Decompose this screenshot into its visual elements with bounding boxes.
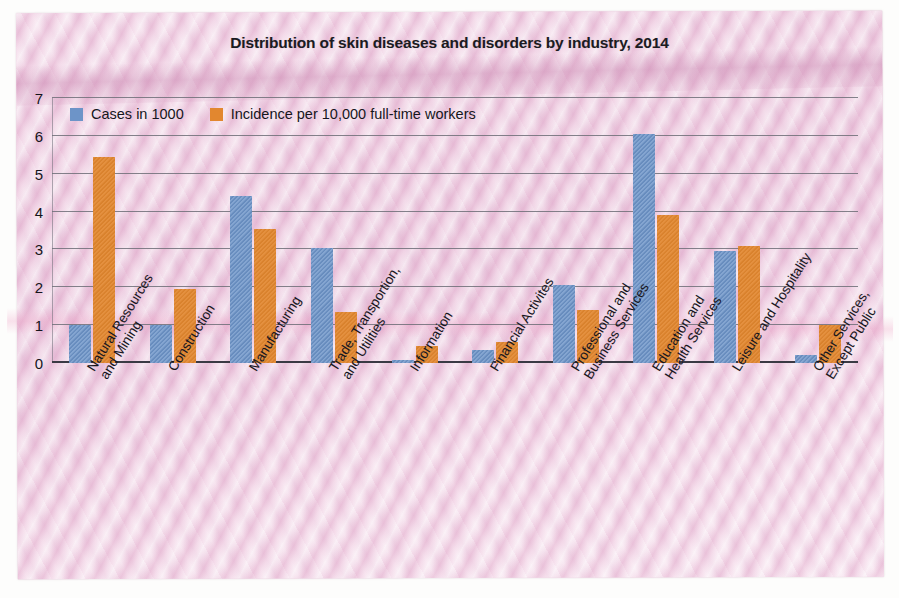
y-axis-tick-7: 7 — [35, 91, 43, 106]
legend-label-incidence: Incidence per 10,000 full-time workers — [231, 106, 476, 122]
chart-title: Distribution of skin diseases and disord… — [0, 34, 899, 52]
bar-cases — [633, 134, 655, 363]
chart-legend: Cases in 1000 Incidence per 10,000 full-… — [70, 106, 476, 122]
legend-item-incidence: Incidence per 10,000 full-time workers — [210, 106, 476, 122]
legend-swatch-icon-incidence — [210, 108, 223, 121]
x-axis-labels: Natural Resources and MiningConstruction… — [52, 366, 858, 566]
y-axis-tick-1: 1 — [35, 318, 43, 333]
y-axis-tick-6: 6 — [35, 128, 43, 143]
y-axis-tick-2: 2 — [35, 280, 43, 295]
legend-label-cases: Cases in 1000 — [91, 106, 184, 122]
scanned-chart-page: Distribution of skin diseases and disord… — [0, 0, 899, 598]
bar-cases — [230, 196, 252, 363]
plot-area: 01234567 — [52, 98, 858, 363]
y-axis-tick-3: 3 — [35, 242, 43, 257]
legend-swatch-icon-cases — [70, 108, 83, 121]
y-axis-tick-4: 4 — [35, 204, 43, 219]
bars-layer — [52, 98, 858, 363]
y-axis-tick-0: 0 — [35, 356, 43, 371]
bar-cases — [150, 325, 172, 363]
y-axis-tick-5: 5 — [35, 166, 43, 181]
bar-cases — [311, 248, 333, 363]
legend-item-cases: Cases in 1000 — [70, 106, 184, 122]
bar-cases — [553, 285, 575, 363]
